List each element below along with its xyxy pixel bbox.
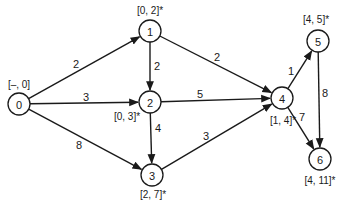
node-5: 5 [307, 30, 329, 52]
edge-3-to-4 [162, 104, 272, 169]
node-tag-0: [–, 0] [8, 79, 30, 90]
node-6: 6 [309, 148, 331, 170]
node-label: 0 [16, 99, 22, 111]
edge-weight-1-2: 2 [154, 60, 160, 72]
edge-weight-5-6: 8 [322, 87, 328, 99]
edge-weight-0-3: 8 [76, 139, 82, 151]
edge-weight-0-1: 2 [73, 58, 79, 70]
node-tag-6: [4, 11]* [305, 175, 336, 186]
node-label: 4 [279, 93, 285, 105]
node-tag-2: [0, 3]* [114, 111, 140, 122]
edge-weight-2-4: 5 [197, 88, 203, 100]
node-1: 1 [139, 20, 161, 42]
node-2: 2 [139, 91, 161, 113]
edge-weight-4-5: 1 [288, 65, 294, 77]
node-tag-1: [0, 2]* [137, 5, 163, 16]
node-tag-5: [4, 5]* [303, 14, 329, 25]
node-4: 4 [271, 87, 293, 109]
node-0: 0 [8, 93, 30, 115]
node-label: 3 [149, 170, 155, 182]
edge-weight-0-2: 3 [83, 91, 89, 103]
node-label: 2 [147, 97, 153, 109]
edge-weight-4-6: 7 [299, 111, 305, 123]
edge-weight-3-4: 3 [203, 130, 209, 142]
edge-2-to-3 [150, 113, 151, 163]
edge-1-to-4 [160, 36, 271, 93]
node-3: 3 [141, 164, 163, 186]
edge-weight-2-3: 4 [155, 122, 161, 134]
edge-0-to-1 [29, 37, 140, 99]
node-tag-4: [1, 4]* [270, 115, 296, 126]
edge-weight-1-4: 2 [214, 51, 220, 63]
edge-2-to-4 [161, 98, 270, 101]
node-label: 5 [315, 36, 321, 48]
node-tag-3: [2, 7]* [140, 189, 166, 200]
shortest-path-graph: 23822543187 0123456 [–, 0][0, 2]*[0, 3]*… [0, 0, 341, 201]
node-label: 6 [317, 154, 323, 166]
edge-5-to-6 [318, 52, 320, 147]
node-label: 1 [147, 26, 153, 38]
